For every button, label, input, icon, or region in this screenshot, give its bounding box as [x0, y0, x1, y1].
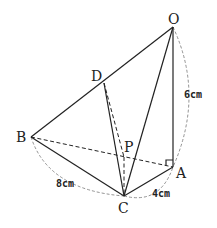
- label-o: O: [168, 11, 179, 27]
- measure-oa: 6cm: [184, 89, 202, 100]
- measure-ca: 4cm: [152, 188, 170, 199]
- edge-dc: [104, 83, 124, 196]
- edge-dp: [104, 83, 124, 157]
- measure-bc: 8cm: [56, 178, 74, 189]
- geometry-diagram: O D B P A C 6cm 8cm 4cm: [0, 0, 217, 228]
- label-d: D: [91, 68, 102, 84]
- label-c: C: [118, 200, 129, 216]
- label-a: A: [175, 165, 187, 181]
- label-b: B: [16, 129, 26, 145]
- label-p: P: [124, 139, 133, 155]
- edge-oc: [124, 27, 173, 196]
- edge-bc: [31, 137, 124, 196]
- right-angle-icon: [166, 160, 173, 166]
- edge-ba: [31, 137, 173, 167]
